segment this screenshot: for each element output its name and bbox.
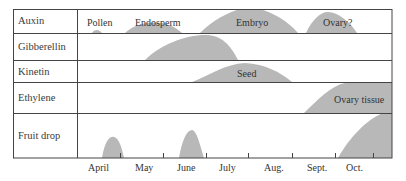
peak-label-ovary: Ovary? bbox=[323, 17, 353, 28]
fruit-drop-june-peak bbox=[179, 130, 204, 158]
auxin-curves bbox=[92, 8, 357, 33]
month-label-aug: Aug. bbox=[264, 162, 284, 173]
peak-label-embryo: Embryo bbox=[236, 17, 268, 28]
row-label-kinetin: Kinetin bbox=[18, 66, 50, 77]
peak-label-pollen: Pollen bbox=[87, 17, 113, 28]
month-label-june: June bbox=[177, 162, 196, 173]
pollen-peak bbox=[92, 30, 102, 33]
row-label-ethylene: Ethylene bbox=[18, 92, 56, 103]
fruit-drop-autumn-peak bbox=[338, 113, 392, 158]
month-label-may: May bbox=[135, 162, 153, 173]
month-ticks bbox=[121, 153, 374, 158]
peak-label-ovary-tissue: Ovary tissue bbox=[334, 94, 385, 105]
month-label-sept: Sept. bbox=[307, 162, 327, 173]
hormone-timeline-chart: Auxin Gibberellin Kinetin Ethylene Fruit… bbox=[0, 0, 406, 181]
row-label-auxin: Auxin bbox=[18, 15, 45, 26]
row-label-gibberellin: Gibberellin bbox=[18, 41, 67, 52]
month-label-april: April bbox=[88, 162, 109, 173]
fruit-drop-curves bbox=[102, 113, 392, 158]
row-label-fruit-drop: Fruit drop bbox=[18, 130, 60, 141]
month-label-oct: Oct. bbox=[346, 162, 363, 173]
month-label-july: July bbox=[219, 162, 236, 173]
gibberellin-peak bbox=[145, 35, 238, 60]
peak-label-seed: Seed bbox=[237, 68, 256, 79]
gibberellin-curves bbox=[145, 35, 238, 60]
peak-label-endosperm: Endosperm bbox=[135, 17, 181, 28]
